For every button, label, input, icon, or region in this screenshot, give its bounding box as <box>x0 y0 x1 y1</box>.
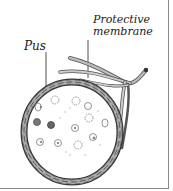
blood-vessels <box>60 58 148 148</box>
protective-membrane <box>22 80 122 184</box>
pus-cells <box>34 96 109 156</box>
abscess-illustration <box>0 0 173 191</box>
